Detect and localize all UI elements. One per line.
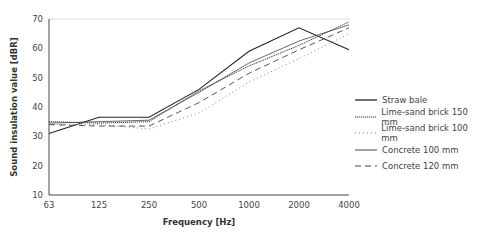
legend-label: Concrete 120 mm: [382, 161, 458, 171]
series-line-concrete-100-mm: [49, 25, 349, 123]
series-line-straw-bale: [49, 28, 349, 134]
y-tick-label: 20: [32, 161, 43, 171]
x-tick-label: 4000: [338, 200, 360, 210]
legend-swatch-icon: [355, 163, 377, 169]
x-tick-label: 500: [191, 200, 207, 210]
legend-item: Lime-sand brick 100 mm: [355, 125, 484, 142]
legend-swatch-icon: [355, 130, 376, 136]
legend-label: Straw bale: [382, 95, 427, 105]
legend-swatch-icon: [355, 147, 377, 153]
y-tick-label: 30: [32, 131, 43, 141]
x-tick-label: 2000: [288, 200, 310, 210]
x-tick-label: 125: [91, 200, 107, 210]
legend-label: Concrete 100 mm: [382, 145, 458, 155]
y-tick-label: 60: [32, 43, 43, 53]
x-tick-label: 1000: [238, 200, 260, 210]
y-tick-label: 10: [32, 190, 43, 200]
x-tick-label: 250: [141, 200, 157, 210]
legend-swatch-icon: [355, 97, 377, 103]
legend-item: Concrete 120 mm: [355, 158, 484, 175]
y-tick-label: 70: [32, 14, 43, 24]
x-axis-title: Frequency [Hz]: [163, 217, 236, 227]
y-tick-label: 40: [32, 102, 43, 112]
legend-swatch-icon: [355, 114, 376, 120]
series-line-lime-sand-brick-150-mm: [49, 22, 349, 123]
legend-item: Concrete 100 mm: [355, 142, 484, 159]
legend: Straw baleLime-sand brick 150 mmLime-san…: [355, 92, 484, 175]
y-axis-title: Sound insulation value [dBR]: [9, 37, 19, 177]
x-tick-label: 63: [44, 200, 55, 210]
y-tick-label: 50: [32, 73, 43, 83]
legend-label: Lime-sand brick 100 mm: [381, 123, 484, 143]
